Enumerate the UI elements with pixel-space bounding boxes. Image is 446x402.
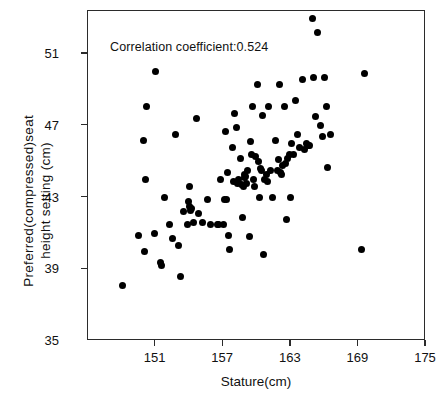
data-point bbox=[239, 214, 246, 221]
data-point bbox=[141, 248, 148, 255]
x-axis-tick bbox=[424, 340, 425, 346]
x-axis-tick bbox=[154, 340, 155, 346]
scatter-plot-figure: Preferred(compressed)seat height setting… bbox=[0, 0, 446, 402]
data-point bbox=[283, 216, 290, 223]
data-point bbox=[222, 128, 229, 135]
data-point bbox=[193, 115, 200, 122]
data-point bbox=[290, 151, 297, 158]
data-point bbox=[264, 178, 271, 185]
data-point bbox=[278, 171, 285, 178]
data-point bbox=[267, 167, 274, 174]
data-point bbox=[175, 242, 182, 249]
data-point bbox=[223, 196, 230, 203]
data-point bbox=[225, 232, 232, 239]
data-point bbox=[281, 103, 288, 110]
y-axis-tick-label: 35 bbox=[45, 333, 59, 348]
data-point bbox=[321, 74, 328, 81]
data-point bbox=[247, 138, 254, 145]
x-axis-tick bbox=[222, 340, 223, 346]
correlation-annotation: Correlation coefficient:0.524 bbox=[110, 40, 268, 54]
data-point bbox=[250, 176, 257, 183]
x-axis-tick-label: 175 bbox=[414, 350, 436, 365]
y-axis-tick-label: 47 bbox=[45, 117, 59, 132]
data-point bbox=[224, 169, 231, 176]
data-point bbox=[312, 113, 319, 120]
data-point bbox=[249, 103, 256, 110]
data-point bbox=[299, 76, 306, 83]
data-point bbox=[272, 137, 279, 144]
x-axis-tick bbox=[289, 340, 290, 346]
data-point bbox=[256, 194, 263, 201]
y-axis-tick-label: 43 bbox=[45, 189, 59, 204]
data-point bbox=[151, 230, 158, 237]
data-point bbox=[260, 251, 267, 258]
data-point bbox=[309, 15, 316, 22]
data-point bbox=[319, 133, 326, 140]
data-point bbox=[314, 29, 321, 36]
data-point bbox=[317, 122, 324, 129]
data-point bbox=[327, 131, 334, 138]
data-point bbox=[276, 81, 283, 88]
data-point bbox=[220, 221, 227, 228]
data-points-layer bbox=[88, 11, 424, 339]
data-point bbox=[292, 97, 299, 104]
plot-area bbox=[87, 10, 425, 340]
data-point bbox=[188, 205, 195, 212]
data-point bbox=[186, 183, 193, 190]
data-point bbox=[324, 164, 331, 171]
data-point bbox=[158, 262, 165, 269]
data-point bbox=[259, 112, 266, 119]
data-point bbox=[294, 131, 301, 138]
data-point bbox=[195, 210, 202, 217]
data-point bbox=[288, 140, 295, 147]
data-point bbox=[152, 68, 159, 75]
data-point bbox=[143, 103, 150, 110]
data-point bbox=[237, 155, 244, 162]
data-point bbox=[166, 221, 173, 228]
data-point bbox=[269, 194, 276, 201]
data-point bbox=[177, 273, 184, 280]
y-axis-tick-label: 51 bbox=[45, 46, 59, 61]
data-point bbox=[255, 158, 262, 165]
data-point bbox=[254, 81, 261, 88]
x-axis-tick-label: 157 bbox=[211, 350, 233, 365]
data-point bbox=[199, 219, 206, 226]
y-axis-tick-label: 39 bbox=[45, 261, 59, 276]
data-point bbox=[217, 176, 224, 183]
data-point bbox=[119, 282, 126, 289]
data-point bbox=[231, 110, 238, 117]
data-point bbox=[233, 124, 240, 131]
data-point bbox=[190, 219, 197, 226]
data-point bbox=[226, 246, 233, 253]
data-point bbox=[172, 131, 179, 138]
data-point bbox=[246, 233, 253, 240]
x-axis-tick-label: 151 bbox=[144, 350, 166, 365]
x-axis-tick-label: 163 bbox=[279, 350, 301, 365]
data-point bbox=[251, 183, 258, 190]
data-point bbox=[361, 70, 368, 77]
data-point bbox=[161, 194, 168, 201]
data-point bbox=[323, 103, 330, 110]
data-point bbox=[306, 142, 313, 149]
data-point bbox=[265, 103, 272, 110]
data-point bbox=[204, 196, 211, 203]
data-point bbox=[287, 194, 294, 201]
data-point bbox=[358, 246, 365, 253]
data-point bbox=[135, 232, 142, 239]
x-axis-tick-label: 169 bbox=[347, 350, 369, 365]
data-point bbox=[142, 176, 149, 183]
x-axis-title: Stature(cm) bbox=[87, 374, 425, 389]
data-point bbox=[140, 137, 147, 144]
data-point bbox=[244, 167, 251, 174]
x-axis-tick bbox=[357, 340, 358, 346]
data-point bbox=[169, 235, 176, 242]
data-point bbox=[229, 144, 236, 151]
data-point bbox=[310, 74, 317, 81]
